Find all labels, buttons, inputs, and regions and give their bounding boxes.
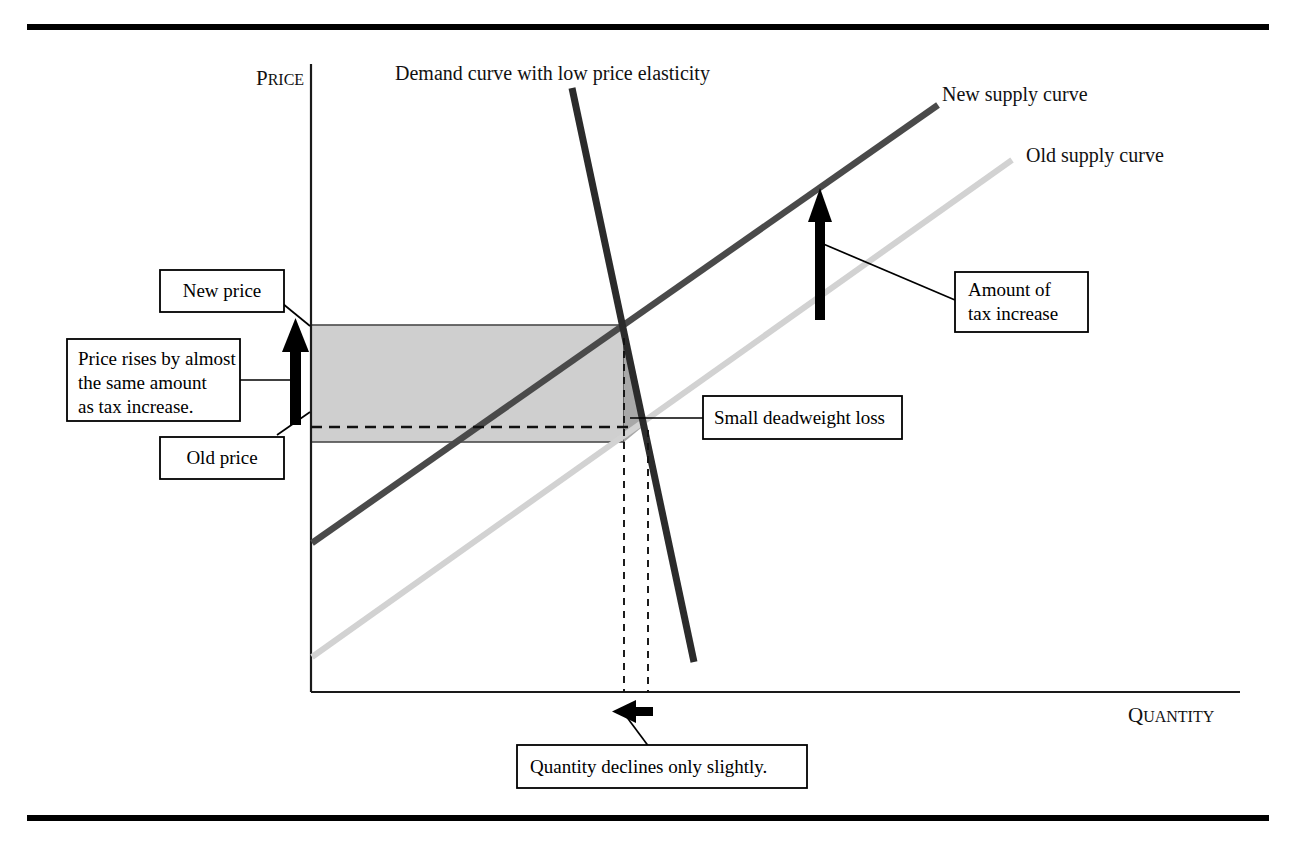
- callout-price-rises-line-2: as tax increase.: [78, 396, 194, 417]
- callout-tax-increase-line-1: tax increase: [968, 303, 1058, 324]
- callout-old-price[interactable]: Old price: [160, 437, 284, 479]
- callout-quantity-declines[interactable]: Quantity declines only slightly.: [517, 745, 807, 788]
- x-axis-label: QUANTITY: [1128, 703, 1215, 727]
- price-increase-arrow: [282, 318, 309, 425]
- callout-tax-increase[interactable]: Amount of tax increase: [955, 272, 1088, 332]
- callout-price-rises[interactable]: Price rises by almost the same amount as…: [67, 339, 240, 421]
- callout-price-rises-line-0: Price rises by almost: [78, 348, 237, 369]
- callout-tax-increase-line-0: Amount of: [968, 279, 1052, 300]
- callout-deadweight-loss[interactable]: Small deadweight loss: [703, 396, 902, 439]
- demand-curve-label: Demand curve with low price elasticity: [395, 62, 710, 85]
- callout-deadweight-line-0: Small deadweight loss: [714, 407, 885, 428]
- tax-revenue-region: [311, 325, 624, 442]
- callout-new-price[interactable]: New price: [160, 270, 284, 312]
- tax-incidence-diagram: PRICE QUANTITY Demand curve with low pri…: [0, 0, 1295, 841]
- new-supply-curve-label: New supply curve: [942, 83, 1088, 106]
- callout-old-price-line-0: Old price: [186, 447, 257, 468]
- callout-new-price-line-0: New price: [183, 280, 262, 301]
- quantity-decline-arrow: [612, 700, 653, 723]
- callout-price-rises-line-1: the same amount: [78, 372, 207, 393]
- callout-quantity-declines-line-0: Quantity declines only slightly.: [530, 756, 767, 777]
- old-supply-curve-label: Old supply curve: [1026, 144, 1164, 167]
- frame-top-rule: [27, 24, 1269, 30]
- y-axis-label: PRICE: [256, 66, 304, 90]
- frame-bottom-rule: [27, 815, 1269, 821]
